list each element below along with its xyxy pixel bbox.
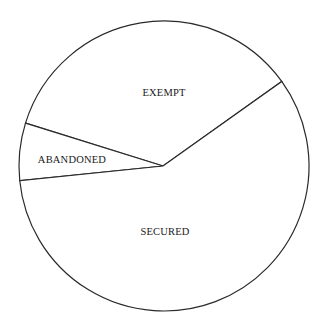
slice-label-secured: SECURED	[140, 226, 189, 237]
slice-label-exempt: EXEMPT	[142, 87, 186, 98]
pie-slices	[19, 21, 309, 311]
pie-chart: EXEMPT ABANDONED SECURED	[0, 0, 325, 324]
slice-label-abandoned: ABANDONED	[38, 154, 107, 165]
